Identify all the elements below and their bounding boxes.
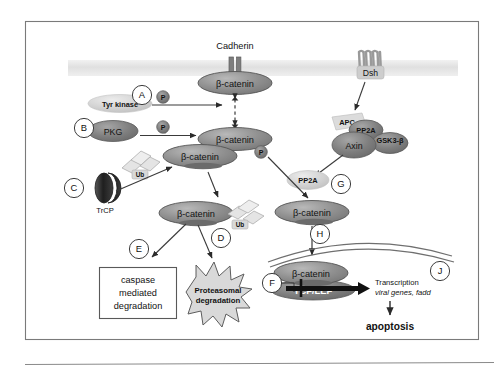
proteasome-line-2: degradation — [196, 296, 241, 305]
bcatenin-membrane-label: β-catenin — [216, 79, 254, 89]
pkg-label: PKG — [104, 127, 123, 137]
bcatenin-cytosol-left-label: β-catenin — [181, 152, 219, 162]
ubiquitin-left-label: Ub — [136, 171, 145, 178]
step-marker-G-label: G — [337, 178, 344, 189]
dsh-label: Dsh — [363, 68, 379, 78]
bcatenin-nuclear-label: β-catenin — [292, 269, 330, 279]
pp2a-free-label: PP2A — [298, 176, 318, 185]
step-marker-A-label: A — [139, 89, 146, 100]
proteasome-line-1: Proteasomal — [195, 286, 242, 295]
pathway-figure: Cadherin Dsh β-catenin Tyr kinase P A PK… — [0, 0, 504, 377]
step-marker-D-label: D — [218, 232, 225, 243]
plasma-membrane — [68, 60, 458, 76]
bcatenin-cytosol-upper-label: β-catenin — [216, 135, 254, 145]
step-marker-J-label: J — [438, 265, 443, 276]
step-marker-E-label: E — [136, 243, 142, 254]
step-marker-F-label: F — [269, 277, 275, 288]
phosphate-C1-label: P — [259, 149, 264, 156]
caspase-line-1: caspase — [121, 275, 155, 285]
caspase-line-2: mediated — [119, 288, 157, 298]
apoptosis-label: apoptosis — [366, 321, 414, 332]
transcription-line-1: Transcription — [375, 278, 419, 287]
phosphate-A-label: P — [161, 94, 166, 101]
cadherin-label: Cadherin — [216, 41, 253, 51]
bcatenin-ub-tagged-label: β-catenin — [177, 209, 215, 219]
tyr-kinase-label: Tyr kinase — [102, 100, 138, 109]
ubiquitin-right-label: Ub — [236, 221, 245, 228]
transcription-line-2: viral genes, fadd — [375, 288, 431, 297]
trcp-node — [95, 173, 121, 203]
bcatenin-free-label: β-catenin — [293, 208, 331, 218]
step-marker-H-label: H — [317, 228, 324, 239]
step-marker-B-label: B — [81, 122, 87, 133]
footer-rule — [25, 363, 494, 365]
step-marker-C-label: C — [71, 182, 78, 193]
caspase-line-3: degradation — [114, 301, 163, 311]
axin-label: Axin — [345, 141, 362, 151]
trcp-label: TrCP — [96, 206, 113, 215]
phosphate-B-label: P — [161, 124, 166, 131]
gsk3b-label: GSK3-β — [376, 136, 404, 145]
